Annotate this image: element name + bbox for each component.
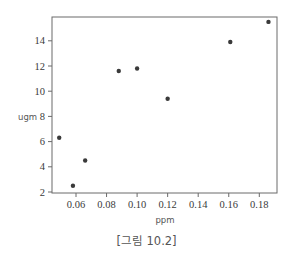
- data-point: [165, 97, 169, 101]
- plot-frame: [52, 17, 277, 193]
- y-tick-label: 12: [35, 61, 46, 72]
- x-tick-label: 0.06: [67, 199, 85, 210]
- y-tick-label: 8: [40, 111, 45, 122]
- x-tick-label: 0.14: [189, 199, 208, 210]
- data-point: [57, 136, 61, 140]
- x-tick-label: 0.16: [220, 199, 238, 210]
- y-tick-label: 10: [35, 86, 46, 97]
- data-points: [57, 20, 271, 188]
- y-axis-label: ugm: [18, 112, 37, 122]
- y-tick-label: 6: [40, 136, 45, 147]
- data-point: [117, 69, 121, 73]
- data-point: [71, 184, 75, 188]
- y-tick-label: 2: [40, 187, 45, 198]
- data-point: [228, 40, 232, 44]
- x-axis-label: ppm: [155, 215, 174, 225]
- data-point: [135, 66, 139, 70]
- x-axis-ticks: 0.060.080.100.120.140.160.18: [67, 193, 269, 210]
- x-tick-label: 0.08: [97, 199, 115, 210]
- data-point: [266, 20, 270, 24]
- x-tick-label: 0.18: [250, 199, 268, 210]
- x-tick-label: 0.12: [158, 199, 176, 210]
- scatter-chart: 2468101214 0.060.080.100.120.140.160.18 …: [0, 0, 293, 230]
- y-tick-label: 4: [40, 161, 46, 172]
- data-point: [83, 158, 87, 162]
- x-tick-label: 0.10: [128, 199, 146, 210]
- y-axis-ticks: 2468101214: [35, 35, 53, 197]
- figure-caption: [그림 10.2]: [0, 232, 293, 248]
- y-tick-label: 14: [35, 35, 46, 46]
